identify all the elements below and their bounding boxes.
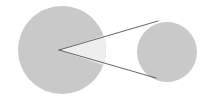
figure-canvas: [0, 0, 215, 102]
small-circle: [137, 22, 197, 82]
geometry-diagram: [0, 0, 215, 102]
